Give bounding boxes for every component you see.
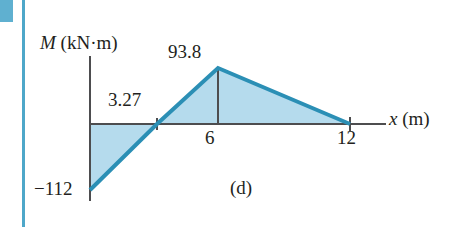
figure-caption: (d) — [230, 178, 252, 197]
x-axis-label-units: (m) — [402, 108, 429, 129]
figure-page: M (kN·m) x (m) 93.8 3.27 6 12 −112 (d) — [0, 0, 465, 227]
zero-crossing-label: 3.27 — [108, 90, 141, 109]
peak-value-label: 93.8 — [168, 42, 201, 61]
min-value-label: −112 — [34, 179, 73, 198]
x-tick-label-12: 12 — [337, 128, 356, 147]
x-tick-label-6: 6 — [205, 128, 215, 147]
y-axis-label-symbol: M — [40, 32, 56, 53]
y-axis-label-units: (kN·m) — [61, 32, 118, 53]
y-axis-label: M (kN·m) — [40, 33, 118, 52]
x-axis-label: x (m) — [389, 109, 430, 128]
